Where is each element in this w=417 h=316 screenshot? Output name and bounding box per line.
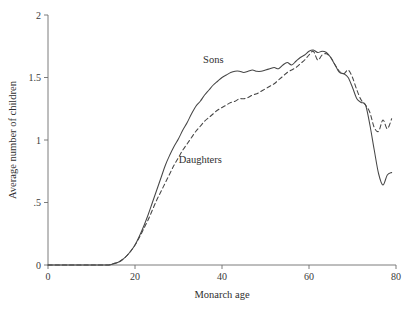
x-tick-label: 80 [391, 271, 401, 282]
series-label-daughters: Daughters [179, 154, 222, 165]
y-axis-ticks: 0.511.52 [29, 10, 49, 271]
x-axis-group: 020406080 Monarch age [46, 265, 402, 300]
series-label-sons: Sons [203, 54, 223, 65]
x-tick-label: 0 [46, 271, 51, 282]
line-chart: 0.511.52 Average number of children 0204… [0, 0, 417, 316]
series-annotations: SonsDaughters [179, 54, 224, 165]
x-tick-label: 60 [304, 271, 314, 282]
x-tick-label: 20 [130, 271, 140, 282]
y-tick-label: 1.5 [29, 72, 42, 83]
y-tick-label: 2 [36, 10, 41, 21]
chart-container: 0.511.52 Average number of children 0204… [0, 0, 417, 316]
y-axis-group: 0.511.52 Average number of children [7, 10, 48, 271]
x-axis-title: Monarch age [194, 289, 249, 300]
y-axis-title: Average number of children [7, 80, 18, 199]
x-axis-ticks: 020406080 [46, 265, 402, 282]
y-tick-label: .5 [34, 197, 42, 208]
y-tick-label: 0 [36, 260, 41, 271]
x-tick-label: 40 [217, 271, 227, 282]
y-tick-label: 1 [36, 135, 41, 146]
